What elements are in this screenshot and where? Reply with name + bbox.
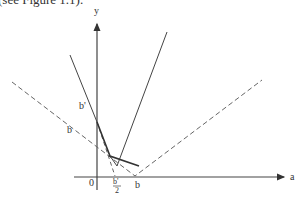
solid-v [110,32,167,166]
solid-line-left [70,55,97,122]
b-label: b [67,124,72,135]
bold-path [97,122,139,166]
origin-label: 0 [89,177,94,188]
b-prime-label: b' [79,100,86,111]
dashed-v-b [12,80,262,176]
b-axis-label: b [135,179,140,190]
a-axis-label: a [290,171,295,182]
b-prime-half-denominator: 2 [115,186,119,195]
b-prime-half-numerator: b' [113,177,119,186]
y-axis-label: y [94,5,99,16]
diagram: y a 0 b' b b' 2 b [0,0,301,204]
